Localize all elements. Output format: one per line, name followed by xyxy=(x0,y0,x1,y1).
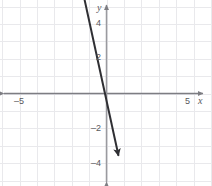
x-axis-label: x xyxy=(198,96,202,106)
y-tick-label-2: 2 xyxy=(96,53,101,62)
graph-canvas xyxy=(0,0,212,186)
coordinate-plane-graph: –5 5 4 2 –2 –4 y x xyxy=(0,0,212,186)
y-tick-label-neg4: –4 xyxy=(91,159,101,168)
y-tick-label-neg2: –2 xyxy=(91,124,101,133)
x-tick-label-5: 5 xyxy=(185,97,190,106)
x-tick-label-neg5: –5 xyxy=(14,97,24,106)
y-axis-label: y xyxy=(97,3,101,13)
y-tick-label-4: 4 xyxy=(96,19,101,28)
